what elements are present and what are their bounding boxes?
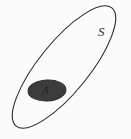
subset-a-label: A bbox=[42, 85, 49, 96]
venn-diagram-canvas bbox=[0, 0, 131, 139]
diagram-background bbox=[0, 0, 131, 139]
universe-set-label: S bbox=[98, 25, 105, 38]
set-diagram: S A bbox=[0, 0, 131, 139]
